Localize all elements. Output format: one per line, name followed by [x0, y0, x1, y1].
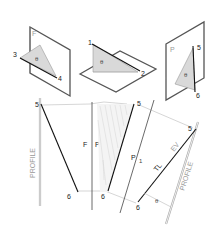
pictorial-profile-plane: P 5 6 θ [166, 22, 204, 100]
point-2-label: 2 [141, 70, 145, 77]
point-5-label: 5 [197, 44, 201, 51]
fold-label-f: F [83, 141, 87, 148]
profile-edge-inner [166, 122, 198, 224]
plane-label-p: P [170, 46, 175, 53]
true-length-label: TL [152, 162, 163, 173]
right-view: 5 6 θ TL EV PROFILE [136, 122, 198, 224]
profile-plane-shape [166, 22, 204, 100]
point-5-label: 5 [35, 101, 39, 108]
projection-line-aux-bottom [105, 191, 136, 203]
angle-theta-label: θ [155, 198, 159, 204]
point-6-label: 6 [67, 193, 71, 200]
point-5-label: 5 [137, 100, 141, 107]
line-plane-angle-diagram: F 3 4 θ 1 2 θ P 5 6 θ 5 6 PROFILE [0, 0, 214, 249]
plane-label-f: F [32, 30, 36, 37]
point-6-label: 6 [196, 92, 200, 99]
fold-label-p: P [131, 154, 136, 161]
point-3-label: 3 [13, 51, 17, 58]
point-6-label: 6 [136, 204, 140, 211]
pictorial-frontal-plane: F 3 4 θ [13, 27, 70, 96]
plane-edge-region [97, 104, 134, 192]
left-view: 5 6 PROFILE [29, 98, 78, 206]
pictorial-horizontal-plane: 1 2 θ [80, 39, 156, 92]
profile-label: PROFILE [29, 148, 36, 178]
point-4-label: 4 [58, 75, 62, 82]
projection-line-aux-top [137, 104, 193, 128]
line-5-6-left [41, 104, 78, 192]
fold-label-1: 1 [139, 158, 143, 164]
point-5-label: 5 [188, 125, 192, 132]
point-6-label: 6 [101, 193, 105, 200]
point-1-label: 1 [88, 39, 92, 46]
